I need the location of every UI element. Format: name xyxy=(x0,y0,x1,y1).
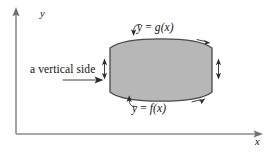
figure-diagram: y = g(x) y = f(x) a vertical side y x xyxy=(0,0,271,160)
diagram-canvas xyxy=(0,0,271,160)
region-shape xyxy=(110,39,212,101)
lower-curve-label-arg: (x) xyxy=(153,102,166,114)
left-vertical-side-marker xyxy=(102,59,107,80)
x-axis-label: x xyxy=(255,137,260,148)
y-axis-label: y xyxy=(40,9,45,20)
upper-curve-label: y = g(x) xyxy=(137,22,174,34)
vertical-side-label: a vertical side xyxy=(30,64,95,76)
lower-curve-label: y = f(x) xyxy=(132,103,166,115)
shaded-region-group xyxy=(110,39,212,101)
right-vertical-side-marker xyxy=(216,59,221,80)
upper-curve-label-arg: (x) xyxy=(161,21,174,33)
vertical-side-pointer xyxy=(63,77,104,84)
upper-curve-label-equals: = xyxy=(142,21,155,33)
lower-curve-label-equals: = xyxy=(137,102,150,114)
